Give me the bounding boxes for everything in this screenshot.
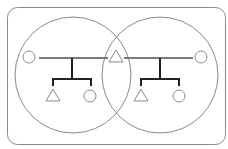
descent-left [52,58,92,86]
son-left-male-triangle-icon [46,89,60,101]
daughter-right-female-circle-icon [173,90,185,102]
kinship-diagram [0,0,228,149]
husband-shared-male-triangle-icon [109,50,123,62]
son-right-male-triangle-icon [134,89,148,101]
daughter-left-female-circle-icon [84,90,96,102]
diagram-svg [0,0,228,149]
descent-right [140,58,180,86]
outer-frame [8,8,226,145]
wife-left-female-circle-icon [23,51,35,63]
venn-circles [15,17,218,133]
wife-right-female-circle-icon [195,51,207,63]
